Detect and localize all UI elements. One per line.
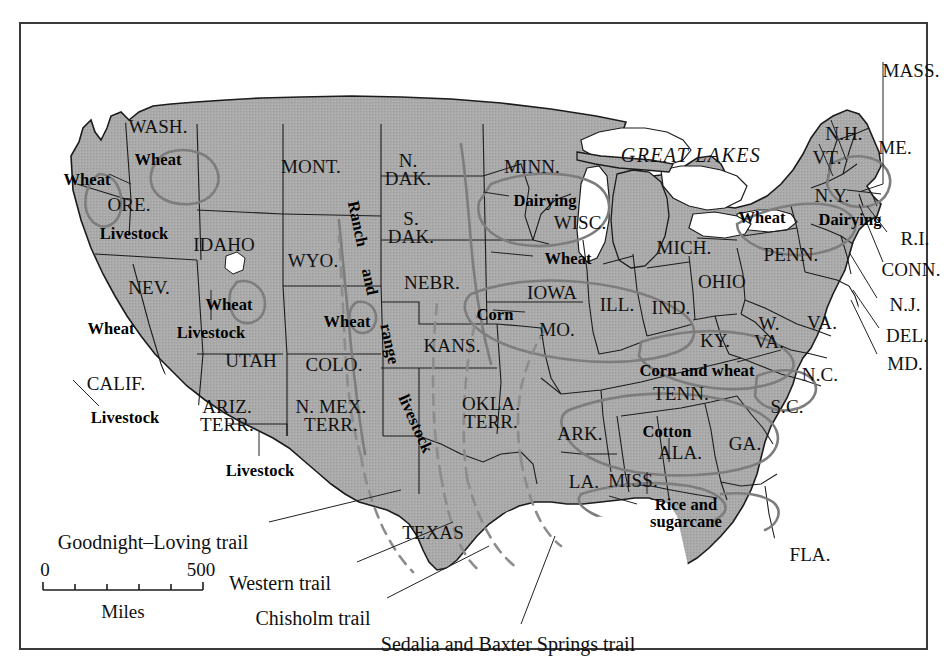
state-label-iowa-line-1: IOWA	[527, 283, 577, 302]
crop-label-wheat-line-1: Wheat	[323, 314, 370, 331]
state-label-ill: ILL.	[600, 295, 635, 314]
state-label-md: MD.	[887, 354, 923, 373]
state-label-utah: UTAH	[225, 351, 277, 370]
crop-label-wheat-line-1: Wheat	[544, 251, 591, 268]
state-label-ga: GA.	[729, 434, 762, 453]
state-label-s-dak: S.DAK.	[388, 210, 434, 246]
state-label-n-mex-terr: N. MEX.TERR.	[296, 398, 367, 434]
state-label-okla-terr-line-2: TERR.	[462, 413, 520, 431]
state-label-wash-line-1: WASH.	[128, 117, 187, 136]
map-frame-border: WASH.ORE.IDAHOMONT.N.DAK.S.DAK.MINN.WISC…	[19, 22, 928, 650]
state-label-miss: MISS.	[608, 471, 658, 490]
trail-label-western-trail: Western trail	[229, 573, 331, 593]
crop-label-wheat: Wheat	[544, 251, 591, 268]
ranch-range-label-word-1: Ranch	[344, 200, 370, 249]
great-lakes-label-line-1: GREAT LAKES	[621, 145, 761, 165]
ranch-range-label-word-4: livestock	[395, 392, 436, 456]
map-text-layer: WASH.ORE.IDAHOMONT.N.DAK.S.DAK.MINN.WISC…	[21, 24, 926, 648]
state-label-vt-line-1: VT.	[813, 148, 842, 167]
crop-label-wheat-line-1: Wheat	[87, 321, 134, 338]
state-label-s-c: S.C.	[770, 397, 803, 416]
state-label-s-c-line-1: S.C.	[770, 397, 803, 416]
crop-label-livestock: Livestock	[177, 325, 246, 342]
crop-label-livestock-line-1: Livestock	[100, 226, 169, 243]
crop-label-wheat: Wheat	[738, 210, 785, 227]
state-label-ky-line-1: KY.	[700, 331, 730, 350]
crop-label-corn: Corn	[476, 307, 513, 324]
state-label-ohio: OHIO	[698, 272, 746, 291]
crop-label-wheat-line-1: Wheat	[205, 297, 252, 314]
trail-label-chisholm-trail: Chisholm trail	[256, 608, 371, 628]
state-label-n-j-line-1: N.J.	[889, 295, 920, 314]
state-label-penn-line-1: PENN.	[764, 245, 819, 264]
ranch-range-label-word-1-line-1: Ranch	[344, 200, 370, 249]
crop-label-corn-line-1: Corn	[476, 307, 513, 324]
state-label-utah-line-1: UTAH	[225, 351, 277, 370]
state-label-texas-line-1: TEXAS	[402, 523, 464, 542]
state-label-ore: ORE.	[107, 195, 150, 214]
crop-label-cotton: Cotton	[642, 424, 691, 441]
state-label-ark-line-1: ARK.	[557, 424, 602, 443]
crop-label-dairying: Dairying	[513, 193, 576, 210]
state-label-ga-line-1: GA.	[729, 434, 762, 453]
crop-label-livestock-line-1: Livestock	[177, 325, 246, 342]
crop-label-rice-and-sugarcane-line-2: sugarcane	[650, 513, 722, 530]
state-label-iowa: IOWA	[527, 283, 577, 302]
state-label-mass-line-1: MASS.	[883, 61, 940, 80]
crop-label-wheat: Wheat	[63, 172, 110, 189]
crop-label-livestock-line-1: Livestock	[91, 410, 160, 427]
state-label-okla-terr: OKLA.TERR.	[462, 395, 520, 431]
state-label-tenn: TENN.	[653, 384, 709, 403]
state-label-n-y: N.Y.	[815, 186, 850, 205]
crop-label-wheat: Wheat	[205, 297, 252, 314]
state-label-md-line-1: MD.	[887, 354, 923, 373]
state-label-wyo: WYO.	[288, 251, 339, 270]
great-lakes-label: GREAT LAKES	[621, 145, 761, 165]
state-label-calif-line-1: CALIF.	[87, 374, 146, 393]
state-label-mich: MICH.	[657, 238, 712, 257]
state-label-n-dak-line-2: DAK.	[385, 170, 431, 188]
state-label-penn: PENN.	[764, 245, 819, 264]
state-label-mont-line-1: MONT.	[281, 157, 341, 176]
ranch-range-label-word-3-line-1: range	[377, 322, 402, 365]
state-label-ala-line-1: ALA.	[658, 443, 702, 462]
state-label-miss-line-1: MISS.	[608, 471, 658, 490]
state-label-mo: MO.	[539, 320, 575, 339]
state-label-mo-line-1: MO.	[539, 320, 575, 339]
state-label-wisc: WISC.	[554, 213, 607, 232]
crop-label-rice-and-sugarcane: Rice andsugarcane	[650, 497, 722, 530]
state-label-nebr: NEBR.	[404, 273, 460, 292]
crop-label-corn-and-wheat-line-1: Corn and wheat	[639, 363, 754, 380]
state-label-n-mex-terr-line-2: TERR.	[296, 416, 367, 434]
state-label-del-line-1: DEL.	[886, 326, 928, 345]
crop-label-livestock: Livestock	[226, 463, 295, 480]
crop-label-wheat-line-1: Wheat	[134, 152, 181, 169]
state-label-mont: MONT.	[281, 157, 341, 176]
trail-label-goodnight-loving-trail: Goodnight–Loving trail	[58, 532, 249, 552]
state-label-fla: FLA.	[789, 545, 830, 564]
scale-bar-start-label: 0	[40, 560, 50, 579]
state-label-w-va: W.VA.	[754, 315, 784, 351]
state-label-ariz-terr: ARIZ.TERR.	[200, 398, 254, 434]
crop-label-livestock: Livestock	[100, 226, 169, 243]
state-label-ill-line-1: ILL.	[600, 295, 635, 314]
state-label-n-h: N.H.	[825, 124, 862, 143]
state-label-nev-line-1: NEV.	[128, 278, 170, 297]
ranch-range-label-word-3: range	[377, 322, 402, 365]
trail-label-sedalia-and-baxter-springs-trail: Sedalia and Baxter Springs trail	[381, 634, 635, 654]
ranch-range-label-word-4-line-1: livestock	[395, 392, 436, 456]
state-label-n-j: N.J.	[889, 295, 920, 314]
state-label-va-line-1: VA.	[807, 313, 837, 332]
crop-label-wheat: Wheat	[87, 321, 134, 338]
state-label-s-dak-line-2: DAK.	[388, 228, 434, 246]
crop-label-dairying: Dairying	[818, 212, 881, 229]
state-label-ariz-terr-line-2: TERR.	[200, 416, 254, 434]
state-label-del: DEL.	[886, 326, 928, 345]
map-figure: WASH.ORE.IDAHOMONT.N.DAK.S.DAK.MINN.WISC…	[0, 0, 946, 669]
crop-label-wheat: Wheat	[134, 152, 181, 169]
scale-bar-end-label: 500	[187, 560, 216, 579]
state-label-nev: NEV.	[128, 278, 170, 297]
state-label-minn: MINN.	[504, 157, 560, 176]
scale-bar-unit-label: Miles	[101, 602, 144, 621]
state-label-ark: ARK.	[557, 424, 602, 443]
